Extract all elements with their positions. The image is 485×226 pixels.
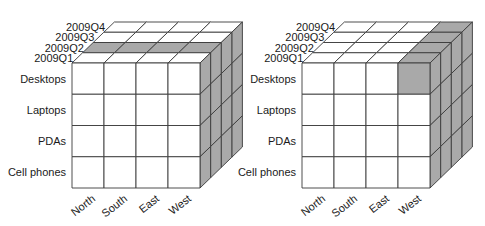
product-label: PDAs <box>38 135 67 147</box>
front-cell <box>366 126 398 157</box>
front-cell <box>72 63 104 94</box>
region-label: South <box>329 192 359 219</box>
product-label: Cell phones <box>8 166 67 178</box>
front-cell <box>104 94 136 125</box>
product-label: Cell phones <box>238 166 297 178</box>
front-cell <box>398 63 430 94</box>
quarter-label: 2009Q1 <box>34 52 73 64</box>
quarter-label: 2009Q4 <box>296 21 335 33</box>
front-cell <box>366 157 398 188</box>
region-label: West <box>396 192 423 217</box>
front-cell <box>302 63 334 94</box>
front-cell <box>168 157 200 188</box>
front-cell <box>334 94 366 125</box>
slice-cube: 2009Q12009Q22009Q32009Q4DesktopsLaptopsP… <box>8 21 242 219</box>
product-label: Laptops <box>257 104 297 116</box>
front-cell <box>398 157 430 188</box>
front-cell <box>104 157 136 188</box>
front-cell <box>334 63 366 94</box>
product-label: Desktops <box>250 73 296 85</box>
front-cell <box>302 94 334 125</box>
quarter-label: 2009Q3 <box>285 31 324 43</box>
region-label: North <box>299 192 328 218</box>
front-cell <box>398 94 430 125</box>
region-label: West <box>166 192 193 217</box>
front-cell <box>398 126 430 157</box>
front-cell <box>366 63 398 94</box>
region-label: East <box>366 192 391 215</box>
front-cell <box>72 126 104 157</box>
product-label: Desktops <box>20 73 66 85</box>
quarter-label: 2009Q3 <box>55 31 94 43</box>
front-cell <box>302 157 334 188</box>
front-cell <box>334 157 366 188</box>
front-cell <box>168 63 200 94</box>
front-cell <box>104 126 136 157</box>
region-label: South <box>99 192 129 219</box>
quarter-label: 2009Q4 <box>66 21 105 33</box>
quarter-label: 2009Q1 <box>264 52 303 64</box>
front-cell <box>366 94 398 125</box>
front-cell <box>136 157 168 188</box>
region-label: North <box>69 192 98 218</box>
front-cell <box>72 94 104 125</box>
quarter-label: 2009Q2 <box>45 42 84 54</box>
front-cell <box>136 126 168 157</box>
front-cell <box>168 126 200 157</box>
front-cell <box>334 126 366 157</box>
product-label: Laptops <box>27 104 67 116</box>
front-cell <box>168 94 200 125</box>
region-label: East <box>136 192 161 215</box>
dice-cube: 2009Q12009Q22009Q32009Q4DesktopsLaptopsP… <box>238 21 472 219</box>
front-cell <box>136 94 168 125</box>
product-label: PDAs <box>268 135 297 147</box>
front-cell <box>104 63 136 94</box>
quarter-label: 2009Q2 <box>275 42 314 54</box>
olap-cube-diagram: 2009Q12009Q22009Q32009Q4DesktopsLaptopsP… <box>0 0 485 226</box>
front-cell <box>302 126 334 157</box>
front-cell <box>136 63 168 94</box>
front-cell <box>72 157 104 188</box>
